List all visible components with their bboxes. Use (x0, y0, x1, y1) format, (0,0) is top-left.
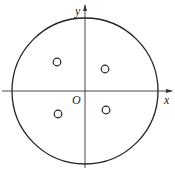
diagram: x y O (0, 0, 175, 171)
small-circle-q1 (101, 65, 109, 73)
small-circle-q2 (53, 58, 61, 66)
small-circle-q4 (102, 106, 110, 114)
y-axis-arrow-icon (83, 4, 87, 11)
origin-label: O (72, 93, 81, 107)
small-circle-q3 (54, 110, 62, 118)
x-axis-label: x (163, 93, 170, 107)
y-axis-label: y (74, 4, 81, 18)
